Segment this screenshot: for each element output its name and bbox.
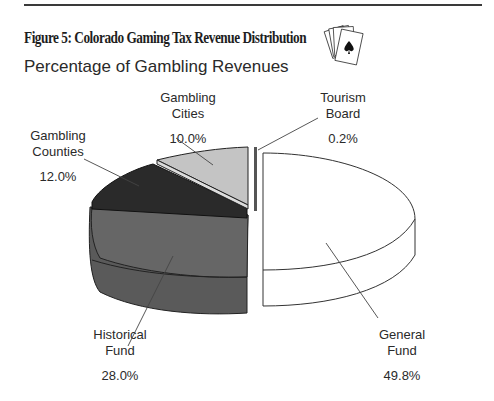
value-gambling-cities: 10.0% <box>148 131 228 147</box>
label-tourism-board: Tourism Board 0.2% <box>303 90 383 147</box>
slice-historical-fund <box>89 207 248 314</box>
value-general-fund: 49.8% <box>362 368 442 384</box>
slice-general-fund <box>263 153 415 306</box>
slice-tourism-board <box>254 147 257 211</box>
label-historical-fund: Historical Fund 28.0% <box>80 327 160 384</box>
label-gambling-cities: Gambling Cities 10.0% <box>148 90 228 147</box>
label-general-fund: General Fund 49.8% <box>362 327 442 384</box>
value-tourism-board: 0.2% <box>303 131 383 147</box>
value-historical-fund: 28.0% <box>80 368 160 384</box>
value-gambling-counties: 12.0% <box>18 169 98 185</box>
label-gambling-counties: Gambling Counties 12.0% <box>18 128 98 185</box>
